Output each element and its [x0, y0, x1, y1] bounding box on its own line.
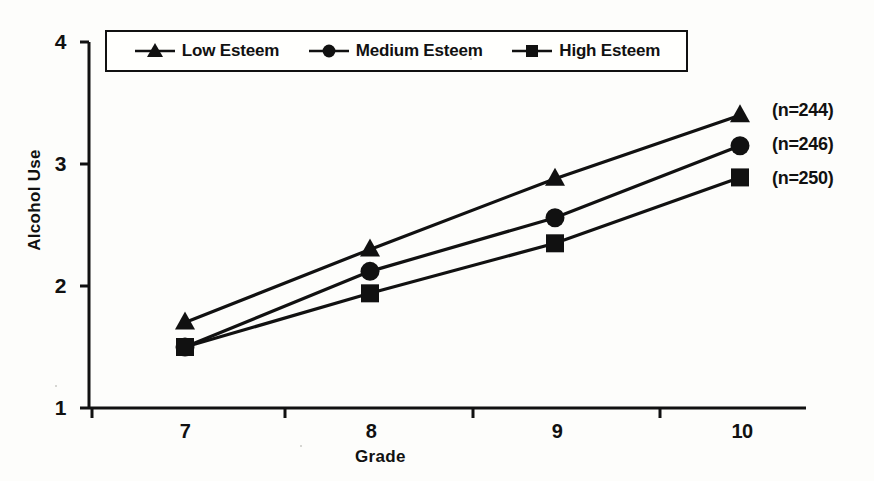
- data-point-low-esteem-grade-10: [730, 104, 750, 122]
- chart-legend: Low Esteem Medium Esteem: [105, 30, 688, 72]
- annotation-n-low-esteem: (n=244): [772, 100, 833, 121]
- legend-marker-circle-icon: [307, 42, 351, 60]
- annotation-n-high-esteem: (n=250): [772, 168, 833, 189]
- data-point-high-esteem-grade-10: [731, 168, 749, 186]
- legend-marker-triangle-icon: [133, 42, 177, 60]
- scan-speck: [55, 385, 57, 387]
- series-markers-low-esteem: [175, 104, 750, 329]
- x-tick-label-9: 9: [527, 420, 587, 443]
- legend-item-high-esteem[interactable]: High Esteem: [510, 41, 660, 61]
- y-tick-label-1: 1: [32, 396, 66, 420]
- chart-container: 4 3 2 1 7 8 9 10 Alcohol Use Grade Low E…: [0, 0, 874, 481]
- series-line-high-esteem: [185, 177, 740, 347]
- annotation-n-medium-esteem: (n=246): [772, 134, 833, 155]
- data-point-medium-esteem-grade-9: [546, 208, 565, 227]
- data-point-high-esteem-grade-9: [546, 234, 564, 252]
- series-line-low-esteem: [185, 115, 740, 322]
- x-tick-label-7: 7: [155, 420, 215, 443]
- chart-plot-area: [0, 0, 874, 481]
- y-tick-label-2: 2: [32, 274, 66, 298]
- data-point-high-esteem-grade-8: [361, 284, 379, 302]
- legend-label-high-esteem: High Esteem: [559, 41, 660, 61]
- y-tick-label-4: 4: [32, 30, 66, 54]
- x-tick-label-10: 10: [712, 420, 772, 443]
- legend-label-low-esteem: Low Esteem: [182, 41, 279, 61]
- legend-marker-square-icon: [510, 42, 554, 60]
- x-tick-label-8: 8: [341, 420, 401, 443]
- data-point-high-esteem-grade-7: [176, 338, 194, 356]
- data-point-medium-esteem-grade-8: [361, 262, 380, 281]
- scan-speck: [470, 58, 472, 60]
- legend-item-medium-esteem[interactable]: Medium Esteem: [307, 41, 483, 61]
- legend-item-low-esteem[interactable]: Low Esteem: [133, 41, 279, 61]
- y-axis-title: Alcohol Use: [25, 140, 45, 260]
- x-axis-title: Grade: [355, 447, 406, 467]
- legend-label-medium-esteem: Medium Esteem: [356, 41, 483, 61]
- series-line-medium-esteem: [185, 146, 740, 347]
- series-markers-high-esteem: [176, 168, 749, 356]
- data-point-medium-esteem-grade-10: [731, 136, 750, 155]
- scan-speck: [300, 445, 302, 447]
